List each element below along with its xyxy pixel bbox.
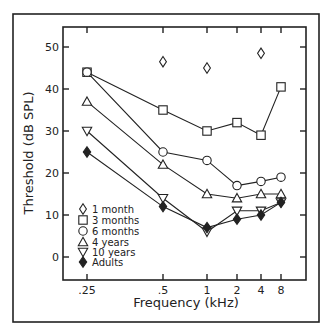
data-point-6-months [233, 181, 241, 189]
data-point-6-months [277, 173, 285, 181]
y-tick-label: 0 [52, 251, 59, 264]
data-point-adults [159, 201, 166, 211]
series-line-4-years [87, 102, 281, 199]
data-point-6-months [257, 177, 265, 185]
data-point-3-months [203, 127, 211, 135]
legend-label: 1 month [92, 204, 134, 215]
x-tick-label: 4 [258, 284, 265, 297]
series-line-6-months [87, 72, 281, 185]
data-point-6-months [203, 156, 211, 164]
legend-symbol-open-square [79, 216, 87, 224]
data-point-1-month [258, 48, 265, 58]
data-point-1-month [204, 63, 211, 73]
legend-symbol-open-diamond [80, 204, 87, 214]
data-point-4-years [202, 189, 211, 197]
legend-label: Adults [92, 257, 123, 268]
legend: 1 month3 months6 months4 years10 yearsAd… [78, 204, 139, 268]
x-tick-label: 8 [278, 284, 285, 297]
data-point-3-months [233, 118, 241, 126]
threshold-chart: 01020304050 .25.51248 Threshold (dB SPL)… [0, 0, 329, 332]
y-tick-label: 30 [45, 125, 59, 138]
legend-symbol-open-circle [79, 227, 87, 235]
legend-label: 6 months [92, 226, 139, 237]
legend-symbol-filled-diamond [79, 257, 86, 267]
x-tick-label: .25 [78, 284, 96, 297]
x-axis-label: Frequency (kHz) [133, 295, 239, 310]
data-point-4-years [82, 97, 91, 105]
data-point-6-months [159, 148, 167, 156]
y-tick-label: 10 [45, 209, 59, 222]
data-point-3-months [277, 83, 285, 91]
legend-symbol-open-triangle-up [78, 237, 87, 245]
y-axis-label: Threshold (dB SPL) [21, 92, 36, 216]
data-point-adults [83, 147, 90, 157]
legend-label: 3 months [92, 215, 139, 226]
data-point-adults [233, 214, 240, 224]
data-point-1-month [160, 57, 167, 67]
y-tick-label: 50 [45, 41, 59, 54]
data-point-3-months [257, 131, 265, 139]
data-point-6-months [83, 68, 91, 76]
y-tick-label: 40 [45, 83, 59, 96]
y-tick-label: 20 [45, 167, 59, 180]
legend-symbol-open-triangle-down [78, 248, 87, 256]
data-point-3-months [159, 106, 167, 114]
